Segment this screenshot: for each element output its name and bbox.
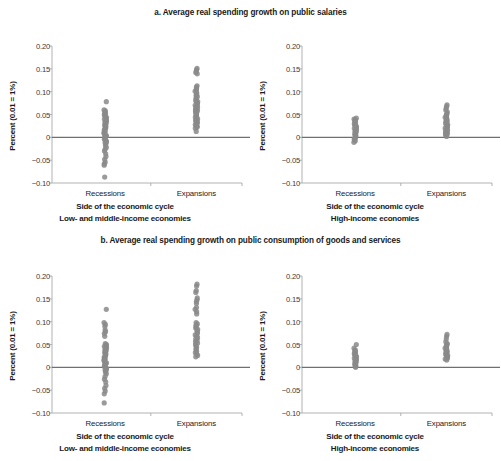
data-point [195, 71, 200, 76]
x-axis-title: Side of the economic cycle [250, 202, 500, 211]
y-axis-tick-label: −0.05 [14, 386, 50, 395]
y-axis-tick-label: 0.05 [264, 340, 300, 349]
y-axis-tick-label: 0.15 [264, 64, 300, 73]
y-axis-tick-label: 0.20 [14, 272, 50, 281]
y-axis-tick-label: 0.15 [14, 64, 50, 73]
data-point [102, 163, 107, 168]
panel-b-title: b. Average real spending growth on publi… [0, 236, 501, 245]
data-point [351, 140, 356, 145]
series-expansions [193, 282, 201, 360]
data-point [102, 391, 107, 396]
x-axis-tick-label-recessions: Recessions [336, 419, 375, 428]
data-point [102, 334, 107, 339]
y-axis-tick-label: 0 [264, 133, 300, 142]
y-axis-tick-label: −0.10 [14, 409, 50, 418]
y-axis-title: Percent (0.01 = 1%) [258, 291, 267, 401]
y-axis-tick-label: 0.20 [14, 42, 50, 51]
y-axis-tick-label: 0.15 [14, 294, 50, 303]
y-axis-tick-label: −0.10 [264, 409, 300, 418]
y-axis-title: Percent (0.01 = 1%) [8, 61, 17, 171]
y-axis-tick-label: 0.20 [264, 272, 300, 281]
data-point [193, 290, 198, 295]
series-expansions [443, 102, 451, 139]
y-axis-title: Percent (0.01 = 1%) [8, 291, 17, 401]
series-recessions [351, 116, 359, 145]
y-axis-tick-labels: 0.200.150.100.050−0.05−0.10 [262, 22, 300, 227]
series-expansions [193, 66, 201, 134]
y-axis-tick-labels: 0.200.150.100.050−0.05−0.10 [12, 22, 50, 227]
y-axis-title-text: Percent (0.01 = 1%) [258, 291, 267, 401]
x-axis-title: Side of the economic cycle [250, 432, 500, 441]
panel-subtitle: Low- and middle-income economies [0, 444, 250, 453]
data-point [102, 174, 107, 179]
chart-panel-b-left: 0.200.150.100.050−0.05−0.10Percent (0.01… [0, 252, 250, 457]
panel-subtitle: Low- and middle-income economies [0, 214, 250, 223]
y-axis-tick-label: 0.15 [264, 294, 300, 303]
series-recessions [101, 99, 109, 180]
y-axis-tick-label: 0.05 [14, 110, 50, 119]
panel-subtitle: High-income economies [250, 444, 500, 453]
panel-a-title: a. Average real spending growth on publi… [0, 8, 501, 17]
y-axis-tick-label: 0 [14, 133, 50, 142]
y-axis-tick-label: 0.10 [14, 87, 50, 96]
y-axis-tick-label: −0.05 [264, 156, 300, 165]
y-axis-tick-label: 0 [264, 363, 300, 372]
data-point [194, 129, 199, 134]
chart-panel-a-right: 0.200.150.100.050−0.05−0.10Percent (0.01… [250, 22, 500, 227]
x-axis-tick-label-expansions: Expansions [177, 419, 216, 428]
data-point [194, 283, 199, 288]
y-axis-title-text: Percent (0.01 = 1%) [258, 61, 267, 171]
y-axis-tick-label: 0.05 [264, 110, 300, 119]
y-axis-tick-label: 0.05 [14, 340, 50, 349]
data-point [353, 365, 358, 370]
y-axis-tick-label: −0.10 [264, 179, 300, 188]
y-axis-tick-labels: 0.200.150.100.050−0.05−0.10 [262, 252, 300, 457]
x-axis-title: Side of the economic cycle [0, 432, 250, 441]
y-axis-tick-label: 0 [14, 363, 50, 372]
y-axis-tick-labels: 0.200.150.100.050−0.05−0.10 [12, 252, 50, 457]
x-axis-tick-label-recessions: Recessions [86, 419, 125, 428]
y-axis-tick-label: 0.20 [264, 42, 300, 51]
y-axis-title: Percent (0.01 = 1%) [258, 61, 267, 171]
y-axis-tick-label: −0.10 [14, 179, 50, 188]
x-axis-tick-label-recessions: Recessions [336, 189, 375, 198]
data-point [193, 354, 198, 359]
y-axis-tick-label: 0.10 [264, 317, 300, 326]
x-axis-title: Side of the economic cycle [0, 202, 250, 211]
chart-panel-b-right: 0.200.150.100.050−0.05−0.10Percent (0.01… [250, 252, 500, 457]
figure-container: a. Average real spending growth on publi… [0, 0, 501, 461]
y-axis-tick-label: 0.10 [264, 87, 300, 96]
data-point [104, 99, 109, 104]
y-axis-tick-label: −0.05 [14, 156, 50, 165]
data-point [102, 400, 107, 405]
y-axis-tick-label: 0.10 [14, 317, 50, 326]
y-axis-title-text: Percent (0.01 = 1%) [8, 61, 17, 171]
data-point [444, 357, 449, 362]
y-axis-tick-label: −0.05 [264, 386, 300, 395]
x-axis-tick-label-recessions: Recessions [86, 189, 125, 198]
x-axis-tick-label-expansions: Expansions [427, 419, 466, 428]
data-point [194, 311, 199, 316]
x-axis-tick-label-expansions: Expansions [177, 189, 216, 198]
series-recessions [101, 307, 109, 406]
data-point [104, 307, 109, 312]
y-axis-title-text: Percent (0.01 = 1%) [8, 291, 17, 401]
panel-subtitle: High-income economies [250, 214, 500, 223]
data-point [444, 134, 449, 139]
series-expansions [443, 332, 451, 363]
chart-panel-a-left: 0.200.150.100.050−0.05−0.10Percent (0.01… [0, 22, 250, 227]
x-axis-tick-label-expansions: Expansions [427, 189, 466, 198]
series-recessions [351, 342, 359, 370]
